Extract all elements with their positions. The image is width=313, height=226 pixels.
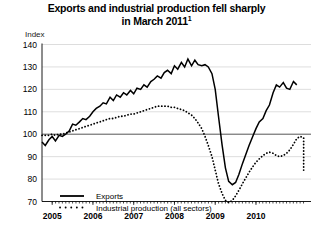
y-tick-100: 100 [23, 129, 37, 139]
y-tick-140: 140 [23, 40, 37, 50]
y-tick-70: 70 [28, 197, 38, 207]
y-axis-tick-labels: 708090100110120130140 [23, 40, 37, 207]
series-line-exports [42, 59, 297, 185]
y-tick-80: 80 [28, 174, 38, 184]
x-tick-2010: 2010 [247, 211, 266, 221]
y-tick-90: 90 [28, 152, 38, 162]
gridlines [42, 45, 311, 180]
chart-container: Exports and industrial production fell s… [0, 0, 313, 226]
data-series-group [42, 59, 304, 203]
chart-plot-area: 708090100110120130140 200520062007200820… [0, 0, 313, 226]
x-tick-2005: 2005 [43, 211, 62, 221]
legend-label-industrial-production: Industrial production (all sectors) [96, 204, 212, 213]
legend-label-exports: Exports [96, 192, 123, 201]
y-tick-130: 130 [23, 62, 37, 72]
y-tick-110: 110 [23, 107, 37, 117]
y-tick-120: 120 [23, 84, 37, 94]
